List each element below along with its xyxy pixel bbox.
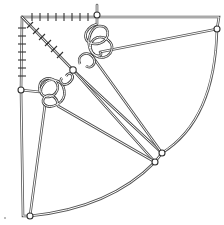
left-node-ring [18,87,24,93]
rope-fan-diagram [0,0,224,225]
arc-node-upper-ring [159,150,165,156]
top-node-ring [94,12,100,18]
arc-node-lower-ring [152,159,158,165]
ropes [21,5,219,216]
upper-knot [79,24,112,67]
lower-knot [39,74,72,107]
right-node-ring [214,26,220,32]
center-node-ring [70,67,76,73]
bottom-node-ring [27,213,33,219]
stray-dot [4,217,6,219]
